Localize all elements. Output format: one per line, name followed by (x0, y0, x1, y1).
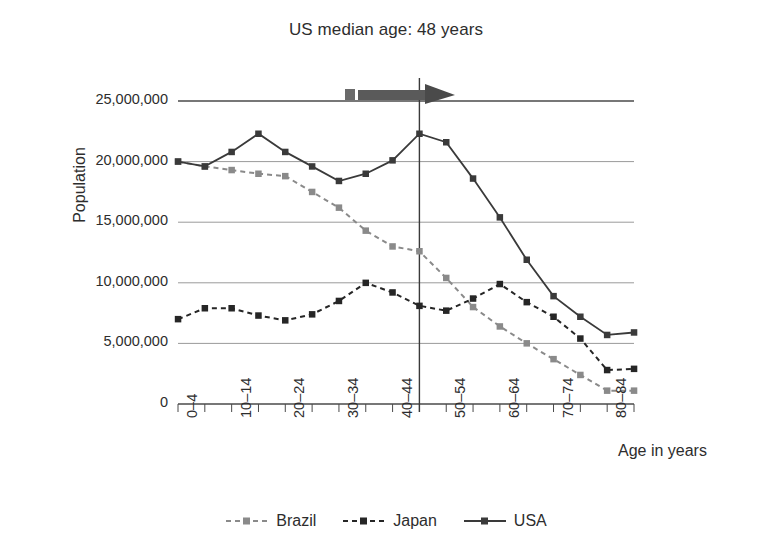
x-tick-label: 20–24 (291, 378, 307, 418)
x-tick-label: 0–4 (184, 394, 200, 418)
x-tick-label: 50–54 (452, 378, 468, 418)
population-by-age-chart: US median age: 48 years Population 05,00… (0, 0, 772, 553)
legend-item-japan[interactable]: Japan (342, 512, 437, 530)
legend-marker (243, 518, 250, 525)
x-tick-label: 60–64 (506, 378, 522, 418)
x-tick-label: 30–34 (345, 378, 361, 418)
legend-key-usa (463, 514, 507, 528)
x-tick-label: 80–84 (613, 378, 629, 418)
legend-label: USA (514, 512, 547, 530)
legend-label: Brazil (276, 512, 316, 530)
x-tick-label: 10–14 (238, 378, 254, 418)
x-axis-title: Age in years (618, 442, 707, 460)
legend-key-brazil (225, 514, 269, 528)
legend-item-usa[interactable]: USA (463, 512, 547, 530)
legend-item-brazil[interactable]: Brazil (225, 512, 316, 530)
legend-label: Japan (393, 512, 437, 530)
legend-key-japan (342, 514, 386, 528)
x-tick-label: 70–74 (560, 378, 576, 418)
legend-marker (360, 518, 367, 525)
x-tick-label: 40–44 (399, 378, 415, 418)
legend-marker (481, 518, 488, 525)
chart-legend: BrazilJapanUSA (0, 512, 772, 530)
x-axis-tick-labels: 0–410–1420–2430–3440–4450–5460–6470–7480… (0, 0, 772, 553)
